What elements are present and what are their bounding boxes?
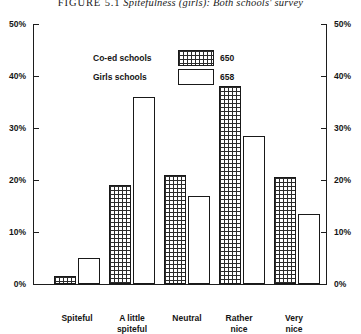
bar-coed-spiteful [54, 276, 76, 284]
y-label-left-10: 10% [9, 228, 26, 237]
y-tick-left-40 [34, 76, 39, 77]
y-label-left-50: 50% [9, 20, 26, 29]
plot-area: 50% 40% 30% 20% 10% 0% 50% 40% 30% 20% 1… [33, 24, 327, 285]
bar-group-spiteful [54, 25, 100, 284]
figure-caption: Spitefulness (girls): Both schools' surv… [123, 0, 303, 8]
y-tick-left-20 [34, 180, 39, 181]
bar-coed-rather-nice [219, 86, 241, 284]
bar-group-neutral [164, 25, 210, 284]
y-tick-right-50 [321, 24, 326, 25]
y-tick-right-40 [321, 76, 326, 77]
y-tick-left-10 [34, 232, 39, 233]
y-label-left-20: 20% [9, 176, 26, 185]
x-label-a-little-spiteful: A little spiteful [102, 313, 162, 334]
y-label-right-20: 20% [334, 176, 351, 185]
x-label-neutral: Neutral [157, 313, 217, 324]
x-label-rather-nice: Rather nice [209, 313, 269, 334]
y-tick-right-10 [321, 232, 326, 233]
y-label-left-40: 40% [9, 72, 26, 81]
y-tick-left-30 [34, 128, 39, 129]
y-tick-right-20 [321, 180, 326, 181]
x-axis [33, 284, 327, 285]
figure-number: FIGURE 5.1 [58, 0, 121, 8]
bar-coed-a-little-spiteful [109, 185, 131, 284]
bar-group-rather-nice [219, 25, 265, 284]
bar-girls-neutral [188, 196, 210, 284]
bar-girls-a-little-spiteful [133, 97, 155, 284]
bar-group-very-nice [274, 25, 320, 284]
y-tick-right-30 [321, 128, 326, 129]
bar-girls-rather-nice [243, 136, 265, 284]
y-label-right-40: 40% [334, 72, 351, 81]
bar-coed-neutral [164, 175, 186, 284]
figure-title: FIGURE 5.1 Spitefulness (girls): Both sc… [0, 0, 361, 8]
y-label-right-0: 0% [334, 280, 346, 289]
y-label-right-30: 30% [334, 124, 351, 133]
y-tick-left-50 [34, 24, 39, 25]
y-label-left-0: 0% [14, 280, 26, 289]
y-axis-right [326, 24, 327, 285]
x-label-spiteful: Spiteful [47, 313, 107, 324]
bar-girls-very-nice [298, 214, 320, 284]
bar-coed-very-nice [274, 177, 296, 284]
bar-group-a-little-spiteful [109, 25, 155, 284]
bar-girls-spiteful [78, 258, 100, 284]
y-axis-left [33, 24, 34, 285]
x-label-very-nice: Very nice [264, 313, 324, 334]
y-label-left-30: 30% [9, 124, 26, 133]
y-label-right-10: 10% [334, 228, 351, 237]
y-label-right-50: 50% [334, 20, 351, 29]
